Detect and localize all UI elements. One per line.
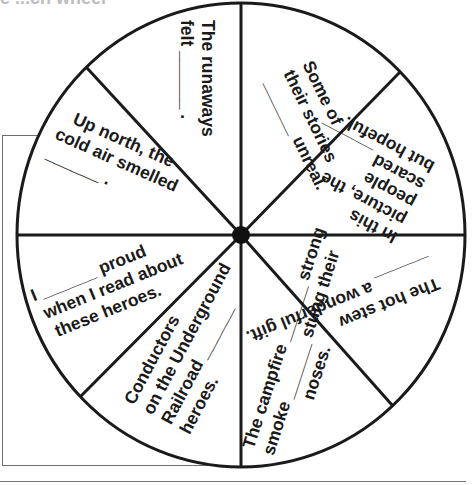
sentence-wheel: The runaways felt ______ . Some of their…	[0, 0, 476, 485]
sector-line: felt ______ .	[177, 20, 197, 119]
spinner-center-dot[interactable]	[232, 226, 250, 244]
worksheet: e ...ch wheel The runaways felt ______ .…	[0, 0, 476, 485]
sector-line: The runaways	[198, 20, 218, 137]
